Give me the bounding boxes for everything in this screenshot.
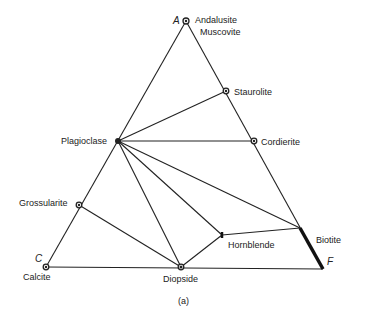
tie-hornblende-diopside [181, 235, 222, 267]
vertex-f-label: F [327, 256, 334, 267]
label-plagioclase: Plagioclase [61, 136, 107, 146]
label-staurolite: Staurolite [234, 87, 272, 97]
acf-diagram: A C F Andalusite Muscovite Staurolite Co… [0, 0, 367, 323]
point-plagioclase [115, 138, 121, 144]
vertex-a-label: A [172, 15, 180, 26]
label-andalusite: Andalusite [195, 15, 237, 25]
diagram-svg: A C F Andalusite Muscovite Staurolite Co… [0, 0, 367, 323]
tie-hornblende-biotite [222, 228, 300, 235]
label-muscovite: Muscovite [200, 27, 241, 37]
tie-plag-hornblende [118, 141, 222, 235]
tie-plag-staurolite [118, 91, 226, 141]
edge-c-f [46, 267, 323, 269]
label-diopside: Diopside [163, 274, 198, 284]
label-cordierite: Cordierite [261, 137, 300, 147]
label-grossularite: Grossularite [19, 198, 68, 208]
tie-plag-biotite [118, 141, 300, 228]
label-calcite: Calcite [23, 272, 51, 282]
label-biotite: Biotite [316, 235, 341, 245]
vertex-c-label: C [35, 253, 43, 264]
figure-caption: (a) [178, 296, 189, 306]
label-hornblende: Hornblende [228, 240, 275, 250]
